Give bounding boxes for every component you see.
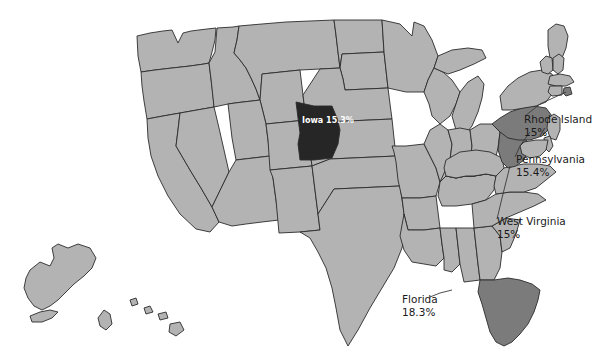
callout-pennsylvania-name: Pennsylvania xyxy=(516,153,585,165)
label-iowa: Iowa 15.3% xyxy=(302,116,344,126)
label-iowa-name: Iowa xyxy=(302,116,323,125)
callout-florida: Florida 18.3% xyxy=(402,293,438,319)
label-iowa-value: 15.3% xyxy=(326,116,354,125)
callout-pennsylvania: Pennsylvania 15.4% xyxy=(516,153,585,179)
callout-west-virginia: West Virginia 15% xyxy=(497,215,566,241)
state-florida[interactable] xyxy=(478,278,540,346)
callout-rhode-island-value: 15% xyxy=(524,126,592,139)
callout-pennsylvania-value: 15.4% xyxy=(516,166,585,179)
callout-west-virginia-value: 15% xyxy=(497,228,566,241)
callout-rhode-island: Rhode Island 15% xyxy=(524,113,592,139)
callout-west-virginia-name: West Virginia xyxy=(497,215,566,227)
callout-florida-name: Florida xyxy=(402,293,438,305)
callout-florida-value: 18.3% xyxy=(402,306,438,319)
callout-rhode-island-name: Rhode Island xyxy=(524,113,592,125)
